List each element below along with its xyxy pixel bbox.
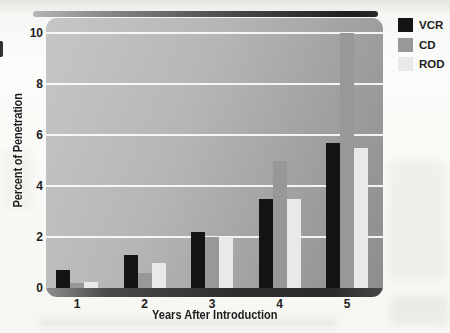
gridline-y-10	[46, 32, 383, 34]
gridline-y-8	[46, 83, 383, 85]
bar-cd-year-3	[205, 237, 219, 288]
x-tick-label-4: 4	[269, 297, 291, 311]
x-tick-label-2: 2	[134, 297, 156, 311]
x-tick-label-3: 3	[201, 297, 223, 311]
y-tick-label-8: 8	[13, 77, 43, 91]
plot-frame	[46, 18, 383, 297]
bar-cd-year-5	[340, 33, 354, 288]
y-tick-label-4: 4	[13, 179, 43, 193]
bar-vcr-year-2	[124, 255, 138, 288]
scanned-chart-figure: Percent of Penetration Years After Intro…	[0, 0, 450, 333]
scan-artifact-top-streak	[33, 11, 378, 17]
bar-rod-year-2	[152, 263, 166, 289]
bar-vcr-year-5	[326, 143, 340, 288]
bar-rod-year-4	[287, 199, 301, 288]
bar-vcr-year-3	[191, 232, 205, 288]
plot-area	[46, 18, 383, 288]
legend-swatch-rod	[398, 57, 413, 71]
bar-rod-year-5	[354, 148, 368, 288]
y-tick-label-10: 10	[13, 26, 43, 40]
y-tick-label-2: 2	[13, 230, 43, 244]
legend-swatch-cd	[398, 38, 413, 52]
scan-bleed-artifact	[388, 160, 446, 280]
axis-baseline-shadow	[46, 288, 383, 297]
legend-label-rod: ROD	[419, 57, 445, 71]
bar-cd-year-4	[273, 161, 287, 289]
legend-label-vcr: VCR	[419, 18, 443, 32]
scan-bleed-artifact	[390, 295, 448, 325]
y-tick-label-0: 0	[13, 281, 43, 295]
y-tick-label-6: 6	[13, 128, 43, 142]
bar-vcr-year-4	[259, 199, 273, 288]
x-tick-label-5: 5	[336, 297, 358, 311]
x-tick-label-1: 1	[66, 297, 88, 311]
bar-vcr-year-1	[56, 270, 70, 288]
bar-cd-year-2	[138, 273, 152, 288]
bar-rod-year-3	[219, 237, 233, 288]
legend-label-cd: CD	[419, 38, 436, 52]
legend-swatch-vcr	[398, 18, 413, 32]
gridline-y-6	[46, 134, 383, 136]
scan-artifact-left-sliver	[0, 41, 3, 57]
